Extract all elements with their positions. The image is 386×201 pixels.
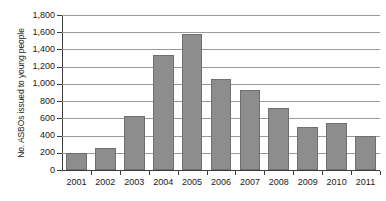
bar-2011 bbox=[355, 136, 376, 170]
y-axis-tick bbox=[57, 170, 62, 171]
x-axis-tick bbox=[178, 171, 179, 175]
y-axis-tick bbox=[57, 67, 62, 68]
x-axis-tick-label: 2008 bbox=[264, 177, 293, 188]
x-axis-tick bbox=[322, 171, 323, 175]
bar-2010 bbox=[326, 123, 347, 170]
x-axis-tick-label: 2004 bbox=[149, 177, 178, 188]
y-axis-tick-label: 1,600 bbox=[7, 28, 55, 37]
x-axis-tick-label: 2006 bbox=[207, 177, 236, 188]
y-axis-tick bbox=[57, 153, 62, 154]
x-axis-tick bbox=[380, 171, 381, 175]
x-axis-tick-label: 2001 bbox=[62, 177, 91, 188]
x-axis-tick bbox=[207, 171, 208, 175]
y-axis-tick bbox=[57, 15, 62, 16]
x-axis-tick-label: 2007 bbox=[235, 177, 264, 188]
x-axis-tick bbox=[91, 171, 92, 175]
y-axis-tick-label: 400 bbox=[7, 131, 55, 140]
bar-2002 bbox=[95, 148, 116, 170]
x-axis-tick bbox=[149, 171, 150, 175]
bar-2006 bbox=[211, 79, 232, 170]
x-axis-tick bbox=[351, 171, 352, 175]
x-axis-tick-label: 2002 bbox=[91, 177, 120, 188]
bar-2001 bbox=[66, 153, 87, 170]
x-axis-tick-label: 2003 bbox=[120, 177, 149, 188]
y-axis-tick-label: 600 bbox=[7, 114, 55, 123]
y-axis-tick-label: 800 bbox=[7, 97, 55, 106]
bar-2004 bbox=[153, 55, 174, 170]
x-axis-tick-label: 2010 bbox=[322, 177, 351, 188]
bar-2008 bbox=[268, 108, 289, 170]
x-axis-tick bbox=[264, 171, 265, 175]
x-axis-tick bbox=[293, 171, 294, 175]
y-axis-tick-label: 1,800 bbox=[7, 11, 55, 20]
bar-series bbox=[62, 15, 380, 170]
y-axis-tick bbox=[57, 32, 62, 33]
bar-2005 bbox=[182, 34, 203, 170]
y-axis-tick bbox=[57, 136, 62, 137]
y-axis-tick bbox=[57, 101, 62, 102]
bar-2009 bbox=[297, 127, 318, 170]
y-axis-tick-label: 0 bbox=[7, 166, 55, 175]
y-axis-tick bbox=[57, 118, 62, 119]
x-axis-tick-label: 2005 bbox=[178, 177, 207, 188]
bar-2007 bbox=[240, 90, 261, 170]
bar-2003 bbox=[124, 116, 145, 170]
x-axis-tick bbox=[120, 171, 121, 175]
y-axis-tick bbox=[57, 49, 62, 50]
y-axis-tick-label: 200 bbox=[7, 148, 55, 157]
x-axis-tick-labels: 2001200220032004200520062007200820092010… bbox=[62, 177, 380, 191]
x-axis-tick bbox=[235, 171, 236, 175]
x-axis-ticks bbox=[62, 171, 380, 175]
y-axis-tick-label: 1,000 bbox=[7, 79, 55, 88]
y-axis-tick-label: 1,400 bbox=[7, 45, 55, 54]
y-axis-tick-labels: 02004006008001,0001,2001,4001,6001,800 bbox=[0, 0, 55, 201]
x-axis-tick-label: 2009 bbox=[293, 177, 322, 188]
y-axis-tick-label: 1,200 bbox=[7, 62, 55, 71]
x-axis-tick-label: 2011 bbox=[351, 177, 380, 188]
y-axis-tick bbox=[57, 84, 62, 85]
bar-chart-figure: No. ASBOs issued to young people 0200400… bbox=[0, 0, 386, 201]
plot-area bbox=[62, 15, 380, 170]
